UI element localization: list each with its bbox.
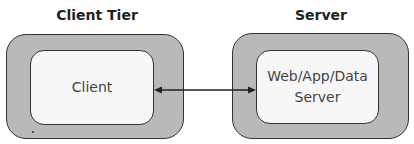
bidirectional-arrow-icon [0,0,414,144]
